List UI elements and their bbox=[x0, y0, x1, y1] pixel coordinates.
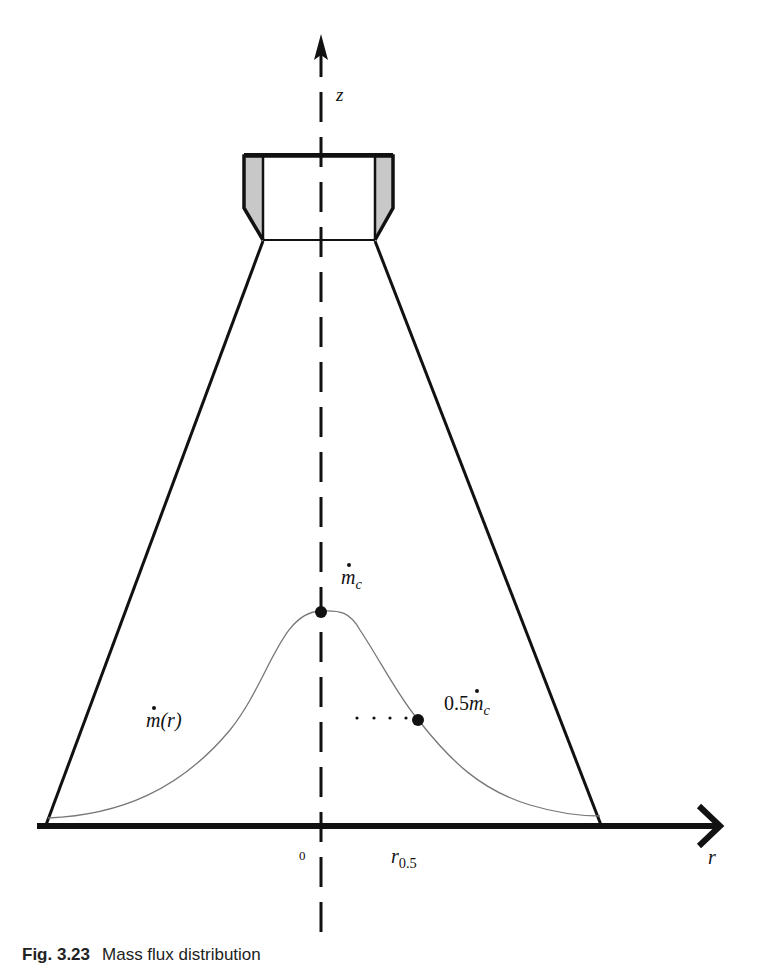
subscript-c: c bbox=[355, 576, 361, 592]
centerline-peak-marker bbox=[315, 606, 327, 618]
r-symbol: r bbox=[391, 845, 399, 867]
half-radius-label: r0.5 bbox=[391, 845, 417, 868]
r-axis bbox=[37, 806, 720, 846]
profile-label: m(r) bbox=[146, 709, 182, 732]
half-max-marker bbox=[412, 714, 424, 726]
z-axis bbox=[314, 34, 328, 932]
mass-flux-profile-curve bbox=[48, 611, 600, 818]
centerline-flux-label: mc bbox=[341, 566, 362, 589]
half-max-leader-dots bbox=[355, 716, 407, 719]
m-dot-symbol: m bbox=[146, 709, 160, 732]
nozzle bbox=[244, 155, 393, 240]
figure-caption: Fig. 3.23Mass flux distribution bbox=[22, 945, 261, 965]
subscript-c: c bbox=[483, 702, 489, 718]
subscript-half: 0.5 bbox=[399, 855, 417, 871]
r-axis-label: r bbox=[708, 846, 716, 869]
spray-cone bbox=[46, 241, 601, 825]
caption-text: Mass flux distribution bbox=[102, 945, 261, 964]
coefficient: 0.5 bbox=[444, 692, 469, 714]
m-dot-symbol: m bbox=[469, 692, 483, 715]
m-dot-symbol: m bbox=[341, 566, 355, 589]
z-axis-label: z bbox=[336, 84, 343, 106]
figure-number: Fig. 3.23 bbox=[22, 945, 90, 964]
origin-label: 0 bbox=[299, 848, 306, 864]
half-max-flux-label: 0.5mc bbox=[444, 692, 490, 715]
profile-argument: (r) bbox=[160, 709, 181, 731]
